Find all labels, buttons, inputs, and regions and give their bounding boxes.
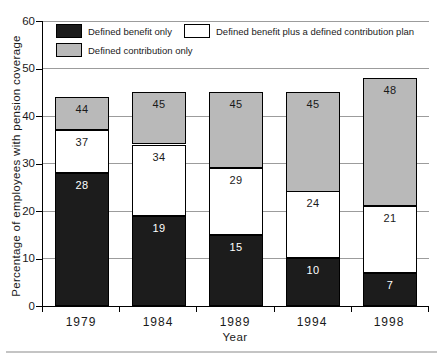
bar-segment-label: 45 <box>210 98 262 110</box>
y-tick-10 <box>36 259 42 260</box>
bar-segment-label: 37 <box>56 136 108 148</box>
bar-segment-label: 21 <box>364 212 416 224</box>
bar-segment-1998-series1: 21 <box>363 206 417 273</box>
bar-segment-label: 44 <box>56 103 108 115</box>
legend-item-defined-contribution-only: Defined contribution only <box>56 43 193 57</box>
bar-segment-1989-series0: 15 <box>209 235 263 306</box>
bar-segment-label: 24 <box>287 197 339 209</box>
legend-swatch-black <box>56 24 82 38</box>
bar-segment-1994-series0: 10 <box>286 258 340 306</box>
y-tick-20 <box>36 211 42 212</box>
legend-label: Defined benefit only <box>88 26 172 37</box>
x-category-label-1979: 1979 <box>46 315 116 329</box>
x-category-label-1998: 1998 <box>354 315 424 329</box>
legend-item-defined-benefit-plus-contribution: Defined benefit plus a defined contribut… <box>184 24 414 38</box>
bar-segment-label: 7 <box>364 279 416 291</box>
y-tick-40 <box>36 116 42 117</box>
bar-segment-label: 34 <box>133 151 185 163</box>
bar-segment-label: 10 <box>287 264 339 276</box>
bar-segment-label: 45 <box>133 98 185 110</box>
x-category-label-1984: 1984 <box>123 315 193 329</box>
bar-segment-label: 15 <box>210 241 262 253</box>
x-axis-title: Year <box>185 331 285 343</box>
x-tick-5 <box>428 307 429 312</box>
bar-segment-1979-series0: 28 <box>55 173 109 306</box>
bar-segment-1998-series0: 7 <box>363 273 417 306</box>
bar-segment-label: 29 <box>210 174 262 186</box>
x-tick-1 <box>119 307 120 312</box>
bar-segment-label: 19 <box>133 222 185 234</box>
bar-segment-1994-series2: 45 <box>286 92 340 192</box>
x-tick-4 <box>351 307 352 312</box>
x-category-label-1989: 1989 <box>200 315 270 329</box>
y-axis-title: Percentage of employees with pension cov… <box>10 35 22 297</box>
legend-swatch-gray <box>56 43 82 57</box>
legend-item-defined-benefit-only: Defined benefit only <box>56 24 172 38</box>
bar-segment-1998-series2: 48 <box>363 78 417 206</box>
bar-segment-1984-series2: 45 <box>132 92 186 144</box>
chart-figure: Percentage of employees with pension cov… <box>0 0 437 358</box>
y-tick-50 <box>36 69 42 70</box>
x-tick-3 <box>274 307 275 312</box>
bar-segment-1989-series2: 45 <box>209 92 263 168</box>
bar-segment-1979-series2: 44 <box>55 97 109 130</box>
y-tick-label-0: 0 <box>4 299 35 314</box>
x-tick-0 <box>42 307 43 312</box>
y-tick-30 <box>36 164 42 165</box>
bar-segment-1989-series1: 29 <box>209 168 263 235</box>
bar-segment-1979-series1: 37 <box>55 130 109 173</box>
bar-segment-1994-series1: 24 <box>286 191 340 258</box>
bar-segment-1984-series0: 19 <box>132 216 186 306</box>
bottom-separator-line <box>6 351 437 353</box>
bar-segment-label: 45 <box>287 98 339 110</box>
bar-segment-label: 48 <box>364 84 416 96</box>
legend: Defined benefit only Defined benefit plu… <box>43 21 429 69</box>
y-tick-label-60: 60 <box>4 14 35 29</box>
plot-area: Defined benefit only Defined benefit plu… <box>42 21 429 307</box>
legend-label: Defined benefit plus a defined contribut… <box>216 26 414 37</box>
legend-swatch-white <box>184 24 210 38</box>
x-tick-2 <box>196 307 197 312</box>
y-tick-60 <box>36 21 42 22</box>
bar-segment-label: 28 <box>56 179 108 191</box>
legend-label: Defined contribution only <box>88 45 193 56</box>
x-category-label-1994: 1994 <box>277 315 347 329</box>
bar-segment-1984-series1: 34 <box>132 145 186 216</box>
